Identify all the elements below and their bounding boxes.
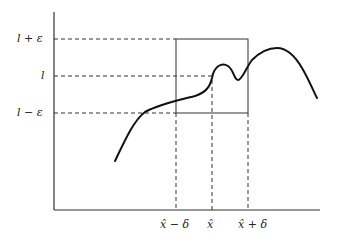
- label-x-hat: x̂: [207, 218, 214, 231]
- label-l-minus-epsilon: l − ε: [17, 106, 43, 119]
- label-x-plus-delta: x̂ + δ: [238, 218, 267, 231]
- label-l: l: [41, 69, 45, 82]
- epsilon-delta-diagram: l + ε l l − ε x̂ − δ x̂ x̂ + δ: [0, 0, 338, 243]
- function-curve: [115, 48, 317, 161]
- label-l-plus-epsilon: l + ε: [17, 32, 43, 45]
- label-x-minus-delta: x̂ − δ: [160, 218, 189, 231]
